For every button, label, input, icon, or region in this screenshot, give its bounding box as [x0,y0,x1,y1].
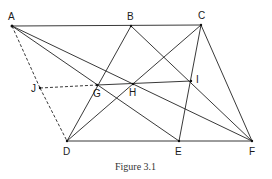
label-j: J [31,83,36,94]
segment-ae [12,26,179,141]
point-c [200,24,202,26]
label-b: B [127,11,134,22]
point-b [130,25,132,27]
figure-caption: Figure 3.1 [115,161,156,172]
label-g: G [93,88,101,99]
point-h [132,83,134,85]
point-i [190,80,192,82]
label-e: E [175,146,182,157]
segment-bf [131,26,252,141]
label-d: D [63,146,70,157]
segment-gi [97,81,191,85]
point-e [178,140,180,142]
label-f: F [249,146,255,157]
label-h: H [129,87,136,98]
dashed-segment-jg [40,85,97,88]
segment-cf [201,25,252,141]
point-a [11,25,14,28]
dashed-segment-jd [40,88,67,141]
point-d [66,140,68,142]
label-a: A [8,11,15,22]
segment-bd [67,26,131,141]
label-c: C [198,10,205,21]
geometry-figure: A B C D E F G H I J Figure 3.1 [0,0,272,179]
point-g [96,84,98,86]
segment-ac [12,25,201,26]
point-f [251,140,253,142]
label-i: I [196,74,199,85]
point-j [39,87,41,89]
